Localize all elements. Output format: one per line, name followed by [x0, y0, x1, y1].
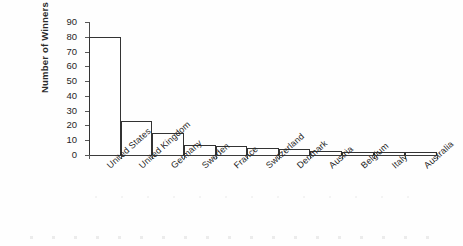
- y-tick-mark: [85, 22, 90, 23]
- x-axis-line: [89, 155, 438, 156]
- x-axis-label: Austria: [327, 144, 355, 171]
- y-tick-label: 60: [37, 60, 77, 71]
- y-tick-label: 40: [37, 90, 77, 101]
- y-tick-label: 30: [37, 105, 77, 116]
- y-tick-label: 80: [37, 31, 77, 42]
- y-tick-label: 50: [37, 75, 77, 86]
- scan-artifact-upper: [95, 196, 415, 198]
- y-tick-label: 20: [37, 119, 77, 130]
- y-tick-label: 90: [37, 16, 77, 27]
- bar: [89, 37, 121, 155]
- y-tick-label: 0: [37, 149, 77, 160]
- chart-figure: Number of Winners 9080706050403020100 Un…: [0, 0, 463, 246]
- x-tick-mark: [89, 155, 90, 159]
- scan-artifact-lower: [30, 236, 430, 239]
- y-tick-label: 10: [37, 134, 77, 145]
- y-tick-label: 70: [37, 46, 77, 57]
